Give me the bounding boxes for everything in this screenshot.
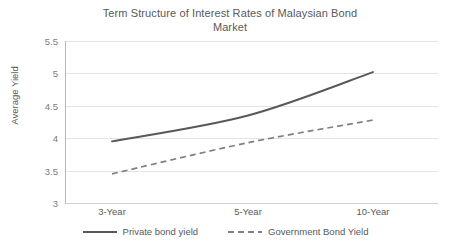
legend-label-government-bond-yield: Government Bond Yield xyxy=(268,226,368,237)
plot-area xyxy=(65,41,438,203)
x-tick-label-3-year: 3-Year xyxy=(77,206,147,217)
legend-item-government-bond-yield: Government Bond Yield xyxy=(228,226,368,237)
gridline-5-5 xyxy=(65,41,438,42)
x-tick-label-5-year: 5-Year xyxy=(213,206,283,217)
gridline-5 xyxy=(65,73,438,74)
y-axis-label: Average Yield xyxy=(9,56,20,136)
legend-item-private-bond-yield: Private bond yield xyxy=(83,226,199,237)
y-tick-label-4-5: 4.5 xyxy=(24,101,58,112)
y-tick-label-5-5: 5.5 xyxy=(24,36,58,47)
x-tick-label-10-year: 10-Year xyxy=(338,206,408,217)
legend-label-private-bond-yield: Private bond yield xyxy=(123,226,199,237)
legend-swatch-solid-icon xyxy=(83,227,117,237)
gridline-3-5 xyxy=(65,171,438,172)
legend-swatch-dashed-icon xyxy=(228,227,262,237)
gridline-4-5 xyxy=(65,106,438,107)
y-tick-label-4: 4 xyxy=(24,133,58,144)
chart-title: Term Structure of Interest Rates of Mala… xyxy=(60,6,400,34)
y-tick-label-3: 3 xyxy=(24,198,58,209)
x-axis-line xyxy=(65,203,438,204)
chart-title-line-2: Market xyxy=(60,20,400,34)
y-axis-line xyxy=(65,41,66,204)
chart-title-line-1: Term Structure of Interest Rates of Mala… xyxy=(60,6,400,20)
gridline-4 xyxy=(65,138,438,139)
y-tick-label-5: 5 xyxy=(24,68,58,79)
chart-container: Term Structure of Interest Rates of Mala… xyxy=(0,0,451,250)
y-tick-label-3-5: 3.5 xyxy=(24,166,58,177)
chart-legend: Private bond yield Government Bond Yield xyxy=(0,226,451,237)
